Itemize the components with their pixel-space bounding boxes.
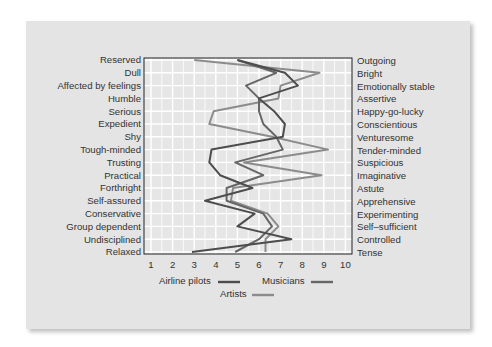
left-trait-label: Shy — [124, 131, 141, 142]
left-trait-label: Conservative — [85, 208, 141, 219]
right-trait-label: Astute — [357, 183, 384, 194]
left-trait-label: Tough-minded — [80, 144, 141, 155]
x-tick-label: 5 — [235, 259, 240, 270]
left-trait-label: Relaxed — [106, 246, 141, 257]
right-trait-label: Suspicious — [357, 157, 404, 168]
left-trait-label: Reserved — [100, 54, 141, 65]
left-trait-label: Forthright — [100, 182, 141, 193]
left-trait-label: Practical — [104, 170, 141, 181]
x-tick-label: 10 — [340, 259, 351, 270]
x-tick-label: 4 — [213, 259, 219, 270]
x-tick-label: 7 — [278, 259, 283, 270]
right-trait-label: Assertive — [357, 93, 396, 104]
x-tick-label: 8 — [300, 259, 305, 270]
right-trait-label: Venturesome — [357, 132, 414, 143]
left-trait-label: Self-assured — [87, 195, 141, 206]
right-trait-label: Controlled — [357, 234, 401, 245]
left-trait-label: Undisciplined — [84, 234, 141, 245]
right-trait-label: Emotionally stable — [357, 81, 435, 92]
right-trait-label: Self–sufficient — [357, 221, 417, 232]
left-trait-label: Affected by feelings — [57, 80, 141, 91]
left-trait-label: Expedient — [98, 118, 141, 129]
right-trait-label: Imaginative — [357, 170, 406, 181]
left-trait-label: Dull — [124, 67, 141, 78]
x-tick-label: 9 — [321, 259, 326, 270]
right-trait-label: Happy-go-lucky — [357, 106, 424, 117]
left-trait-label: Humble — [108, 93, 141, 104]
right-trait-label: Tender-minded — [357, 145, 421, 156]
right-trait-label: Experimenting — [357, 209, 418, 220]
right-trait-label: Apprehensive — [357, 196, 416, 207]
x-tick-label: 1 — [148, 259, 153, 270]
legend-label: Artists — [220, 288, 247, 299]
right-trait-label: Bright — [357, 68, 382, 79]
left-trait-label: Serious — [108, 106, 141, 117]
legend-label: Musicians — [262, 275, 305, 286]
left-trait-label: Group dependent — [66, 221, 141, 232]
left-trait-label: Trusting — [107, 157, 141, 168]
personality-profile-chart: ReservedDullAffected by feelingsHumbleSe… — [0, 0, 492, 347]
right-trait-label: Tense — [357, 247, 383, 258]
right-trait-label: Outgoing — [357, 55, 396, 66]
x-tick-label: 3 — [192, 259, 197, 270]
x-tick-label: 6 — [256, 259, 261, 270]
x-tick-label: 2 — [170, 259, 175, 270]
legend-label: Airline pilots — [159, 275, 211, 286]
right-trait-label: Conscientious — [357, 119, 417, 130]
